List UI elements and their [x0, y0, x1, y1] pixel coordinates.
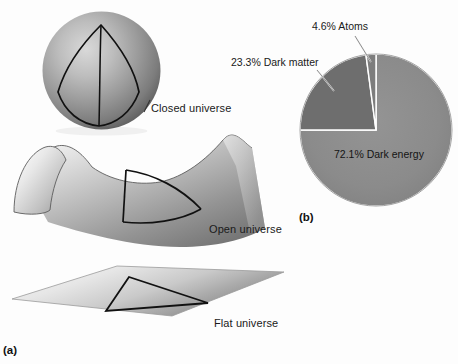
- flat-universe-label: Flat universe: [214, 317, 278, 329]
- sphere-shadow: [56, 127, 148, 136]
- flat-universe-plane: [12, 266, 284, 316]
- panel-a-letter: (a): [3, 344, 17, 356]
- figure-root: Closed universe Open universe Flat unive…: [0, 0, 458, 364]
- pie-label-dark-energy: 72.1% Dark energy: [334, 148, 424, 160]
- figure-graphics: [0, 0, 458, 364]
- open-universe-label: Open universe: [209, 223, 282, 235]
- pie-label-dark-matter: 23.3% Dark matter: [231, 56, 319, 68]
- cosmic-composition-pie-chart: [300, 36, 452, 206]
- panel-b-letter: (b): [299, 211, 314, 223]
- pie-label-atoms: 4.6% Atoms: [312, 20, 368, 32]
- closed-universe-label: Closed universe: [151, 102, 231, 114]
- closed-universe-sphere: [43, 12, 161, 136]
